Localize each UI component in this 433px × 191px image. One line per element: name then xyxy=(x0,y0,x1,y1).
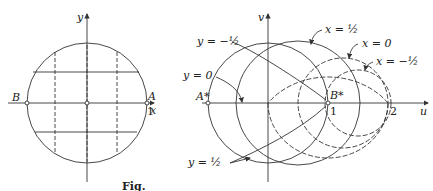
left-tick-1: 1 xyxy=(147,106,154,117)
right-tick-2: 2 xyxy=(390,106,397,117)
figure: x y B A 1 u v A* B* 1 2 y = −½ y = 0 y =… xyxy=(0,0,433,191)
u-axis-label: u xyxy=(420,106,427,117)
label-x-half: x = ½ xyxy=(325,24,358,35)
point-a-star-label: A* xyxy=(196,91,209,102)
figure-caption: Fig. xyxy=(122,180,146,191)
label-y-zero: y = 0 xyxy=(183,70,212,81)
y-axis-label: y xyxy=(77,12,83,23)
label-x-zero: x = 0 xyxy=(362,38,391,49)
right-tick-1: 1 xyxy=(330,106,337,117)
label-y-neg-half: y = −½ xyxy=(197,36,239,47)
point-a-label: A xyxy=(148,91,156,102)
label-y-half: y = ½ xyxy=(188,157,221,168)
point-b-label: B xyxy=(12,92,20,103)
v-axis-label: v xyxy=(258,12,264,23)
label-x-neg-half: x = −½ xyxy=(376,56,418,67)
point-b-star-label: B* xyxy=(330,90,344,101)
